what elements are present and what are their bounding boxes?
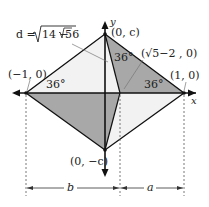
angle-left-label: 36° [46, 79, 66, 90]
dimension-a-label: a [147, 182, 154, 193]
x-axis-label: x [191, 96, 197, 106]
d-radicand: 14 − 6 [42, 29, 79, 40]
x-axis-arrow-left-icon [12, 90, 20, 97]
right-vertex-label: (1, 0) [170, 70, 200, 81]
left-vertex-label: (−1, 0) [8, 69, 47, 80]
top-vertex-label: (0, c) [111, 27, 140, 38]
dimension-b-label: b [67, 182, 74, 193]
bottom-vertex-label: (0, −c) [70, 156, 108, 167]
angle-top-label: 36° [114, 52, 134, 63]
y-axis-label: y [110, 17, 116, 27]
d-prefix: d = [16, 29, 36, 40]
y-axis-arrow-down-icon [102, 169, 109, 177]
d-inner-radicand: 5 [65, 29, 72, 40]
kite-diagram: d = 14 − 6 5 (0, c) (−1, 0) (1, 0) (0, −… [0, 0, 209, 207]
angle-right-label: 36° [144, 79, 164, 90]
shaded-triangle-lower-left [26, 93, 120, 150]
inner-point-label: (√5−2 , 0) [141, 48, 197, 59]
y-axis-arrow-up-icon [102, 21, 109, 29]
